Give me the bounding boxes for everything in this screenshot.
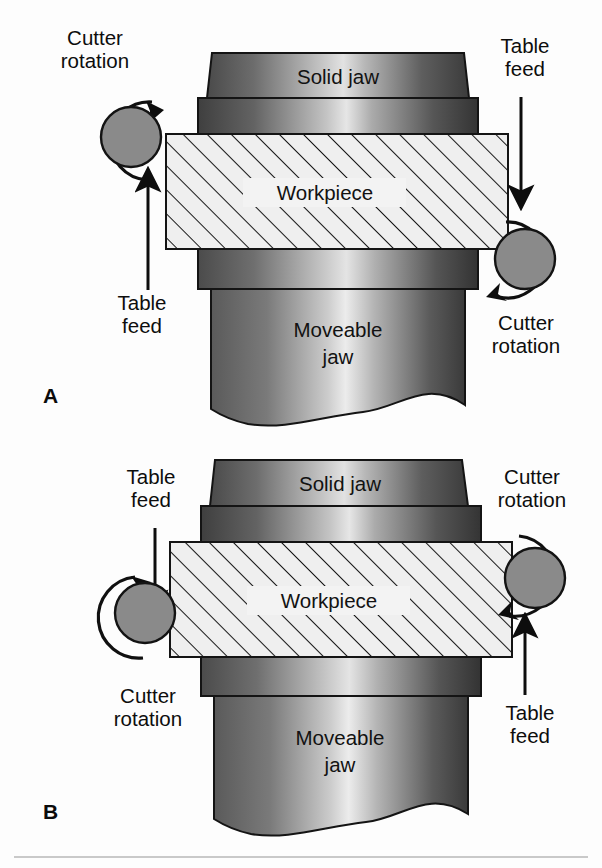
cutter-circle xyxy=(505,548,565,608)
callout-a-top-left-line2: rotation xyxy=(61,49,129,72)
label-moveable-jaw-line1: Moveable xyxy=(294,318,383,341)
callout-b-bottom-right-line2: feed xyxy=(510,724,550,747)
label-workpiece: Workpiece xyxy=(281,589,377,612)
panel-letter-b: B xyxy=(43,800,58,823)
callout-b-top-left-line2: feed xyxy=(131,488,171,511)
cutter-circle xyxy=(495,229,555,289)
callout-a-top-right-line2: feed xyxy=(505,57,545,80)
panel-letter-a: A xyxy=(43,384,58,407)
callout-b-top-right-line1: Cutter xyxy=(504,465,560,488)
solid-jaw-lower-step xyxy=(201,506,481,542)
label-workpiece: Workpiece xyxy=(277,181,373,204)
callout-a-top-left-line1: Cutter xyxy=(67,26,123,49)
callout-b-top-left-line1: Table xyxy=(126,465,175,488)
diagram-panel-b: Table feed Cutter rotation Cutter rotati… xyxy=(0,430,602,868)
cutter-circle xyxy=(115,583,175,643)
moveable-jaw-upper-step xyxy=(198,249,478,289)
panel-a-canvas: Cutter rotation Table feed Cutter rotati… xyxy=(0,0,602,438)
figure-page: Cutter rotation Table feed Cutter rotati… xyxy=(0,0,602,868)
moveable-jaw-upper-step xyxy=(201,656,481,696)
callout-b-bottom-left-line2: rotation xyxy=(114,707,182,730)
label-moveable-jaw-line2: jaw xyxy=(324,753,356,776)
bottom-divider xyxy=(14,856,588,858)
callout-a-top-right-line1: Table xyxy=(500,34,549,57)
callout-a-bottom-left-line1: Table xyxy=(117,291,166,314)
callout-a-bottom-right-line1: Cutter xyxy=(498,311,554,334)
label-moveable-jaw-line1: Moveable xyxy=(296,726,385,749)
label-solid-jaw: Solid jaw xyxy=(299,472,381,495)
panel-b-canvas: Table feed Cutter rotation Cutter rotati… xyxy=(0,430,602,868)
callout-b-top-right-line2: rotation xyxy=(498,488,566,511)
callout-b-bottom-right-line1: Table xyxy=(505,701,554,724)
solid-jaw-lower-step xyxy=(198,98,478,134)
callout-b-bottom-left-line1: Cutter xyxy=(120,684,176,707)
diagram-panel-a: Cutter rotation Table feed Cutter rotati… xyxy=(0,0,602,438)
cutter-circle xyxy=(101,107,161,167)
label-moveable-jaw-line2: jaw xyxy=(322,345,354,368)
callout-a-bottom-right-line2: rotation xyxy=(492,334,560,357)
label-solid-jaw: Solid jaw xyxy=(297,65,379,88)
callout-a-bottom-left-line2: feed xyxy=(122,314,162,337)
